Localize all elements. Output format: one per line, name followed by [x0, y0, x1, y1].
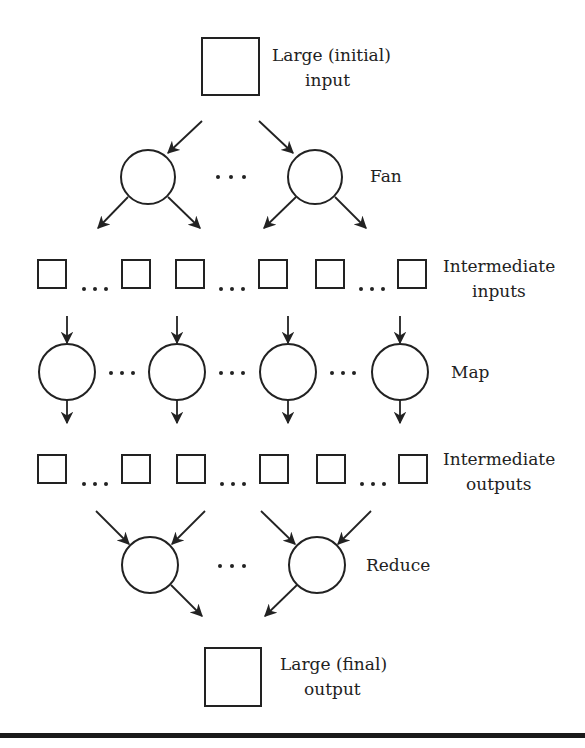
map-node	[149, 344, 205, 400]
arrow-fan-left-out-1	[98, 197, 128, 228]
intermediate-output-box	[317, 455, 345, 483]
arrow-into-reduce-left	[96, 511, 129, 544]
reduce-node-right	[289, 537, 345, 593]
reduce-label: Reduce	[366, 555, 430, 575]
intermediate-input-box	[259, 260, 287, 288]
large-input-label-line1: Large (initial)	[272, 45, 391, 65]
map-label: Map	[451, 362, 490, 382]
fan-node-left	[121, 150, 175, 204]
large-input-box	[202, 38, 259, 95]
intermediate-inputs-label-line1: Intermediate	[443, 256, 555, 276]
mapreduce-diagram: Large (initial) input Fan Intermediate i…	[0, 0, 585, 748]
intermediate-outputs-label-line2: outputs	[466, 474, 531, 494]
intermediate-outputs-label-line1: Intermediate	[443, 449, 555, 469]
intermediate-output-box	[38, 455, 66, 483]
intermediate-output-box	[177, 455, 205, 483]
map-row	[39, 344, 428, 400]
arrow-into-reduce-right	[261, 511, 295, 544]
intermediate-inputs-row	[38, 260, 426, 291]
fan-node-right	[288, 150, 342, 204]
map-node	[372, 344, 428, 400]
reduce-ellipsis	[218, 564, 246, 568]
intermediate-input-box	[122, 260, 150, 288]
intermediate-input-box	[316, 260, 344, 288]
map-node	[39, 344, 95, 400]
intermediate-outputs-row	[38, 455, 427, 486]
arrow-into-reduce-left	[172, 511, 205, 544]
intermediate-output-box	[399, 455, 427, 483]
large-output-box	[205, 648, 261, 706]
map-node	[260, 344, 316, 400]
intermediate-input-box	[398, 260, 426, 288]
fan-label: Fan	[370, 166, 402, 186]
arrow-reduce-left-out	[171, 585, 202, 616]
arrow-input-to-fan-right	[259, 121, 293, 153]
arrow-fan-right-out-2	[335, 197, 366, 228]
bottom-rule-divider	[0, 733, 585, 738]
reduce-node-left	[122, 537, 178, 593]
arrow-input-to-fan-left	[168, 121, 202, 153]
intermediate-input-box	[176, 260, 204, 288]
arrow-fan-right-out-1	[264, 197, 296, 228]
intermediate-output-box	[260, 455, 288, 483]
fan-ellipsis	[216, 175, 246, 179]
arrow-into-reduce-right	[338, 511, 371, 544]
large-output-label-line1: Large (final)	[280, 654, 387, 674]
large-output-label-line2: output	[304, 679, 361, 699]
intermediate-inputs-label-line2: inputs	[472, 281, 526, 301]
large-input-label-line2: input	[305, 70, 350, 90]
intermediate-input-box	[38, 260, 66, 288]
arrow-fan-left-out-2	[168, 197, 200, 228]
intermediate-output-box	[122, 455, 150, 483]
arrow-reduce-right-out	[265, 585, 297, 616]
